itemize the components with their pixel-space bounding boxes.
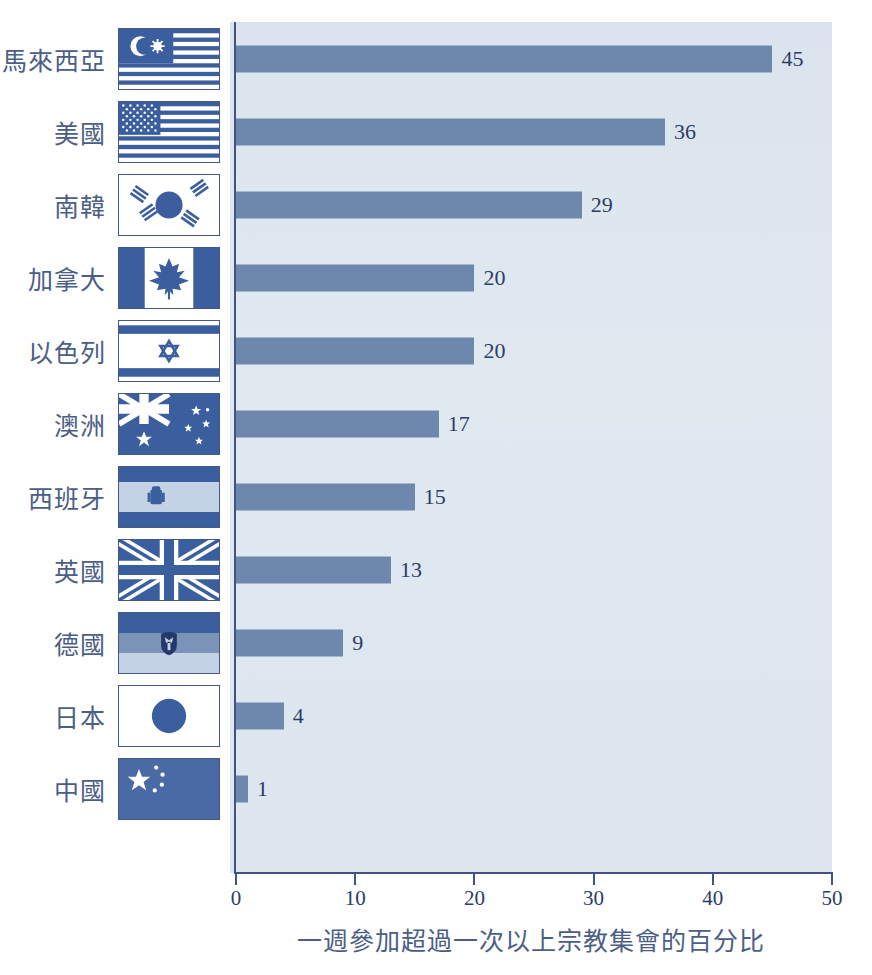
south-korea-flag: [118, 174, 220, 236]
x-axis-tick: [473, 874, 475, 885]
bar-value-label: 9: [352, 630, 363, 656]
chart-row: 加拿大 20: [0, 241, 872, 314]
x-axis-tick-label: 0: [231, 886, 242, 911]
bar-value-label: 1: [257, 776, 268, 802]
united-kingdom-flag: [118, 539, 220, 601]
x-axis-tick: [593, 874, 595, 885]
bar: [236, 629, 343, 656]
bar: [236, 556, 391, 583]
country-label: 英國: [0, 552, 106, 588]
x-axis-tick: [235, 874, 237, 885]
x-axis-tick: [712, 874, 714, 885]
bar-value-label: 29: [591, 192, 613, 218]
bar: [236, 118, 665, 145]
bar-value-label: 20: [483, 265, 505, 291]
germany-flag: [118, 612, 220, 674]
x-axis-tick-label: 30: [583, 886, 604, 911]
chart-row: 日本 4: [0, 679, 872, 752]
chart-row: 德國 9: [0, 606, 872, 679]
x-axis-line: [234, 872, 833, 874]
chart-row: 馬來西亞 45: [0, 22, 872, 95]
china-flag: [118, 758, 220, 820]
x-axis-tick-label: 10: [345, 886, 366, 911]
bar-value-label: 36: [674, 119, 696, 145]
chart-row: 英國 13: [0, 533, 872, 606]
bar-value-label: 15: [424, 484, 446, 510]
bar-value-label: 4: [293, 703, 304, 729]
bar: [236, 337, 474, 364]
chart-row: 美國 36: [0, 95, 872, 168]
bar: [236, 264, 474, 291]
country-label: 南韓: [0, 187, 106, 223]
chart-row: 中國 1: [0, 752, 872, 825]
x-axis-tick: [831, 874, 833, 885]
bar: [236, 702, 284, 729]
country-label: 美國: [0, 114, 106, 150]
country-label: 加拿大: [0, 260, 106, 296]
bar-value-label: 45: [781, 46, 803, 72]
x-axis-tick-label: 20: [464, 886, 485, 911]
country-label: 馬來西亞: [0, 41, 106, 77]
bar: [236, 191, 582, 218]
bar: [236, 410, 439, 437]
country-label: 日本: [0, 698, 106, 734]
bar-value-label: 20: [483, 338, 505, 364]
israel-flag: [118, 320, 220, 382]
country-label: 德國: [0, 625, 106, 661]
country-label: 以色列: [0, 333, 106, 369]
japan-flag: [118, 685, 220, 747]
canada-flag: [118, 247, 220, 309]
chart-row: 澳洲 17: [0, 387, 872, 460]
chart-row: 以色列 20: [0, 314, 872, 387]
bar: [236, 483, 415, 510]
bar: [236, 45, 772, 72]
bar-value-label: 13: [400, 557, 422, 583]
x-axis-tick-label: 40: [702, 886, 723, 911]
usa-flag: [118, 101, 220, 163]
country-label: 澳洲: [0, 406, 106, 442]
australia-flag: [118, 393, 220, 455]
x-axis-tick-label: 50: [822, 886, 843, 911]
chart-row: 南韓 29: [0, 168, 872, 241]
country-label: 西班牙: [0, 479, 106, 515]
chart-row: 西班牙 15: [0, 460, 872, 533]
x-axis-tick: [354, 874, 356, 885]
country-label: 中國: [0, 771, 106, 807]
bar-chart: 01020304050 馬來西亞 45美國: [0, 0, 872, 975]
x-axis-caption: 一週參加超過一次以上宗教集會的百分比: [230, 921, 832, 957]
malaysia-flag: [118, 28, 220, 90]
spain-flag: [118, 466, 220, 528]
bar-value-label: 17: [448, 411, 470, 437]
bar: [236, 775, 248, 802]
